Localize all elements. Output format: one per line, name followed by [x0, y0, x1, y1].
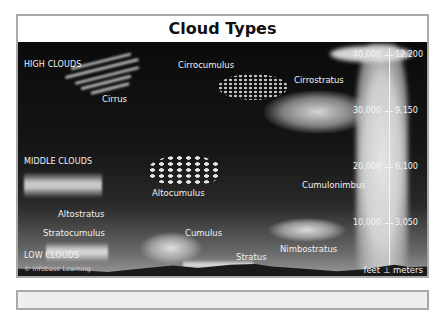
feet-unit-label: feet [363, 265, 380, 275]
middle-clouds-label: MIDDLE CLOUDS [24, 157, 92, 166]
cumulonimbus-cloud [356, 44, 408, 276]
altitude-meters-3050: 3,050 [395, 218, 418, 227]
high-clouds-label: HIGH CLOUDS [24, 60, 81, 69]
altitude-feet-10000: 10,000 [353, 218, 381, 227]
cirrocumulus-label: Cirrocumulus [178, 60, 234, 70]
altitude-axis [389, 48, 390, 276]
altostratus-cloud [24, 172, 102, 198]
units-label: feet ⊥ meters [363, 265, 423, 275]
nimbostratus-cloud [268, 218, 346, 242]
altitude-tick [385, 111, 393, 112]
altocumulus-label: Altocumulus [152, 188, 205, 198]
altitude-meters-9150: 9,150 [395, 106, 418, 115]
secondary-panel [16, 290, 429, 310]
figure-title: Cloud Types [18, 16, 427, 42]
cirrostratus-label: Cirrostratus [294, 75, 344, 85]
stratus-label: Stratus [236, 252, 267, 262]
altitude-tick [385, 223, 393, 224]
meters-unit-label: meters [393, 265, 423, 275]
altitude-meters-6100: 6,100 [395, 162, 418, 171]
nimbostratus-label: Nimbostratus [280, 244, 337, 254]
copyright-text: © Infobase Learning [24, 265, 91, 273]
altocumulus-cloud [148, 155, 222, 185]
altitude-feet-20000: 20,000 [353, 162, 381, 171]
altitude-feet-40000: 40,000 [353, 50, 381, 59]
altitude-tick [385, 55, 393, 56]
altitude-meters-12200: 12,200 [395, 50, 423, 59]
sky-illustration: HIGH CLOUDS MIDDLE CLOUDS LOW CLOUDS Cir… [18, 42, 427, 276]
stratocumulus-label: Stratocumulus [43, 228, 105, 238]
cumulus-label: Cumulus [185, 228, 222, 238]
low-clouds-label: LOW CLOUDS [24, 251, 79, 260]
unit-divider: ⊥ [383, 265, 393, 275]
cloud-types-figure: Cloud Types HIGH CLOUDS MIDD [16, 14, 429, 278]
altostratus-label: Altostratus [58, 209, 104, 219]
cumulonimbus-label: Cumulonimbus [302, 180, 366, 190]
altitude-feet-30000: 30,000 [353, 106, 381, 115]
cirrus-label: Cirrus [102, 94, 127, 104]
altitude-tick [385, 167, 393, 168]
